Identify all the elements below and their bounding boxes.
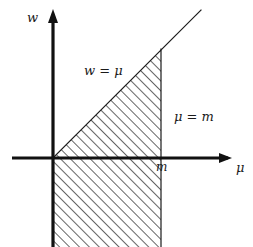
- region-diagram: w μ w = μ μ = m m: [0, 0, 253, 247]
- hatched-region: [53, 50, 161, 247]
- tick-label-m: m: [156, 161, 167, 173]
- mu-axis-label: μ: [236, 161, 244, 174]
- line-label-w-equals-mu: w = μ: [84, 64, 123, 77]
- w-axis-arrowhead: [48, 9, 58, 23]
- w-axis-label: w: [27, 11, 38, 24]
- diagram-canvas: [0, 0, 253, 247]
- mu-axis-arrowhead: [219, 153, 232, 163]
- line-label-mu-equals-m: μ = m: [174, 110, 214, 123]
